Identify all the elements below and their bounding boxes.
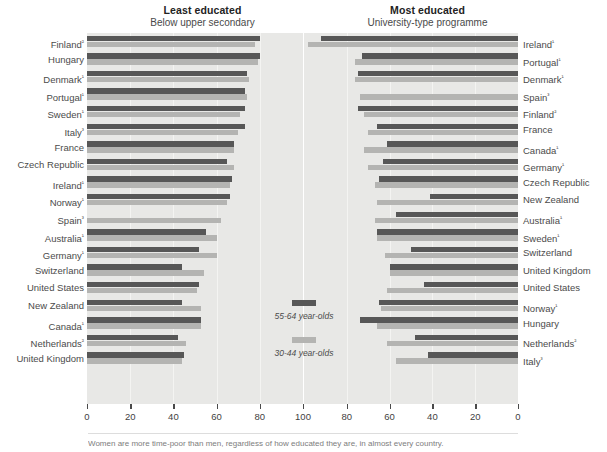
bar-55-64-left <box>87 159 227 164</box>
bar-row: Norway¹New Zealand <box>0 191 607 209</box>
bar-55-64-right <box>411 247 518 252</box>
bar-30-44-right <box>368 165 518 170</box>
bar-30-44-right <box>355 59 518 64</box>
bar-row: Italy³France <box>0 121 607 139</box>
bar-30-44-right <box>368 130 518 135</box>
category-label-right: Ireland¹ <box>523 33 554 51</box>
bar-55-64-left <box>87 36 260 41</box>
category-label-right: Switzerland <box>523 244 572 262</box>
bar-30-44-left <box>87 165 234 170</box>
category-label-left: Norway¹ <box>50 191 84 209</box>
category-label-left: Netherlands² <box>31 332 84 350</box>
bar-row: FranceCanada¹ <box>0 139 607 157</box>
bar-55-64-right <box>362 53 518 58</box>
category-label-left: New Zealand <box>28 297 84 315</box>
category-label-right: Hungary <box>523 315 559 333</box>
bar-row: Finland²Ireland¹ <box>0 33 607 51</box>
bar-55-64-left <box>87 352 184 357</box>
bar-row: Denmark¹Denmark¹ <box>0 68 607 86</box>
bar-55-64-right <box>379 176 518 181</box>
bar-row: Portugal¹Spain³ <box>0 86 607 104</box>
legend-label-55-64: 55-64 year-olds <box>244 311 364 321</box>
axis-tick <box>518 404 519 409</box>
bar-30-44-left <box>87 358 182 363</box>
bar-30-44-left <box>87 130 238 135</box>
category-label-left: Germany¹ <box>43 244 84 262</box>
category-label-right: France <box>523 121 553 139</box>
axis-label-right: 40 <box>417 411 447 422</box>
bar-30-44-left <box>87 42 255 47</box>
axis-tick <box>260 404 261 409</box>
bar-30-44-left <box>87 270 204 275</box>
bar-55-64-left <box>87 229 206 234</box>
category-label-right: Italy³ <box>523 350 543 368</box>
axis-tick <box>390 404 391 409</box>
bar-30-44-left <box>87 59 258 64</box>
category-label-left: Australia¹ <box>45 227 84 245</box>
bar-55-64-left <box>87 335 178 340</box>
category-label-right: Norway¹ <box>523 297 557 315</box>
bar-55-64-left <box>87 124 245 129</box>
bar-55-64-left <box>87 194 230 199</box>
bar-row: United StatesUnited States <box>0 279 607 297</box>
axis-tick <box>347 404 348 409</box>
bar-30-44-right <box>390 270 518 275</box>
bar-30-44-left <box>87 112 240 117</box>
bar-55-64-right <box>387 141 518 146</box>
axis-label-left: 20 <box>115 411 145 422</box>
bar-30-44-left <box>87 200 227 205</box>
axis-label-left: 80 <box>245 411 275 422</box>
bar-row: HungaryPortugal¹ <box>0 51 607 69</box>
axis-label-left: 60 <box>202 411 232 422</box>
bar-55-64-right <box>430 194 518 199</box>
category-label-right: Spain³ <box>523 86 549 104</box>
category-label-right: Australia¹ <box>523 209 562 227</box>
category-label-right: Canada¹ <box>523 139 558 157</box>
bar-30-44-right <box>385 253 518 258</box>
bar-55-64-right <box>321 36 518 41</box>
x-axis: 020406080100806040200 <box>0 404 607 430</box>
panel-left-title: Least educated <box>105 4 300 16</box>
panel-header-right: Most educated University-type programme <box>330 4 525 29</box>
bar-30-44-right <box>396 358 518 363</box>
category-label-left: Ireland¹ <box>53 174 84 192</box>
axis-label-left: 40 <box>158 411 188 422</box>
bar-30-44-left <box>87 306 201 311</box>
bar-55-64-right <box>415 335 518 340</box>
category-label-left: Italy³ <box>64 121 84 139</box>
bar-55-64-left <box>87 53 260 58</box>
bar-row: Spain³Australia¹ <box>0 209 607 227</box>
axis-label-left: 0 <box>72 411 102 422</box>
bar-55-64-left <box>87 176 232 181</box>
category-label-left: Spain³ <box>58 209 84 227</box>
category-label-right: United States <box>523 279 580 297</box>
category-label-right: Portugal¹ <box>523 51 561 69</box>
bar-55-64-left <box>87 317 201 322</box>
bar-55-64-right <box>383 159 518 164</box>
category-label-left: Hungary <box>48 51 84 69</box>
category-label-right: United Kingdom <box>523 262 591 280</box>
bar-30-44-left <box>87 341 186 346</box>
bar-row: Czech RepublicGermany¹ <box>0 156 607 174</box>
bar-30-44-left <box>87 182 230 187</box>
bar-row: Germany¹Switzerland <box>0 244 607 262</box>
bar-55-64-right <box>358 71 519 76</box>
bar-55-64-right <box>390 264 518 269</box>
bar-30-44-left <box>87 288 197 293</box>
legend-swatch-30-44 <box>292 337 316 343</box>
category-label-right: Netherlands² <box>523 332 576 350</box>
category-label-left: Switzerland <box>35 262 84 280</box>
bar-30-44-right <box>377 200 518 205</box>
bar-30-44-right <box>308 42 518 47</box>
axis-tick <box>173 404 174 409</box>
bar-55-64-right <box>360 317 518 322</box>
axis-tick <box>432 404 433 409</box>
bar-30-44-right <box>381 306 518 311</box>
bar-55-64-left <box>87 282 199 287</box>
bar-55-64-right <box>424 282 518 287</box>
axis-label-right: 0 <box>503 411 533 422</box>
bar-55-64-right <box>396 212 518 217</box>
axis-tick <box>303 404 304 409</box>
bar-30-44-left <box>87 77 249 82</box>
category-label-left: Denmark¹ <box>43 68 84 86</box>
